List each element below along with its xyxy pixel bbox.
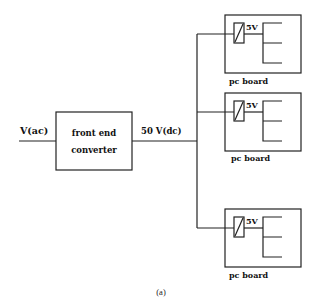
pc-board-1: 5V pc board	[197, 15, 301, 86]
bus-label: 50 V(dc)	[141, 126, 182, 136]
power-distribution-diagram: V(ac) front end converter 50 V(dc) 5V pc…	[0, 0, 320, 306]
converter-label-line2: converter	[71, 145, 117, 155]
regulator-diagonal	[235, 218, 243, 236]
regulator-label: 5V	[246, 100, 259, 110]
pc-board-3: 5V pc board	[197, 209, 301, 280]
pc-board-2: 5V pc board	[197, 93, 301, 163]
regulator-label: 5V	[246, 216, 259, 226]
front-end-converter-box	[56, 112, 132, 170]
regulator-diagonal	[235, 102, 243, 120]
pc-board-label: pc board	[229, 76, 269, 86]
regulator-diagonal	[235, 24, 243, 42]
input-label: V(ac)	[19, 125, 48, 136]
pc-board-label: pc board	[229, 270, 269, 280]
converter-label-line1: front end	[72, 128, 116, 138]
load-comb-icon	[263, 217, 282, 257]
load-comb-icon	[263, 23, 282, 63]
figure-caption: (a)	[156, 287, 166, 297]
regulator-label: 5V	[246, 22, 259, 32]
load-comb-icon	[263, 101, 282, 141]
pc-board-label: pc board	[231, 153, 271, 163]
